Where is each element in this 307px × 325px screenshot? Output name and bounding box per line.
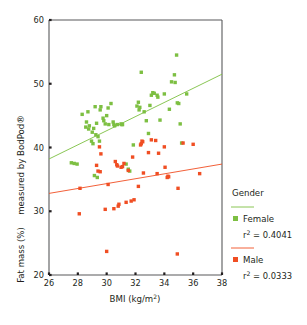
data-point: [158, 118, 161, 121]
data-point: [173, 81, 176, 84]
data-point: [105, 114, 108, 117]
data-point: [98, 108, 101, 111]
data-point: [75, 162, 78, 165]
data-point: [95, 122, 98, 125]
legend-male-swatch: [233, 257, 238, 262]
legend-female-r2: r2 = 0.4041: [243, 229, 292, 240]
data-point: [168, 108, 171, 111]
data-point: [114, 160, 117, 163]
y-tick-label: 50: [34, 79, 44, 89]
plot-frame: [49, 20, 222, 275]
x-tick-label: 30: [101, 278, 111, 288]
data-point: [91, 131, 94, 134]
data-point: [145, 119, 148, 122]
y-axis-tick-labels: 2030405060: [34, 15, 44, 280]
y-axis-title-upper: measured by BodPod®: [16, 115, 26, 215]
data-point: [173, 73, 176, 76]
y-tick-label: 20: [34, 270, 44, 280]
data-point: [112, 207, 115, 210]
male-data-points: [78, 138, 202, 256]
data-point: [178, 122, 181, 125]
data-point: [91, 142, 94, 145]
legend-male-label: Male: [243, 255, 263, 265]
data-point: [92, 127, 95, 130]
legend: Gender Female r2 = 0.4041 Male r2 = 0.03…: [231, 188, 292, 281]
data-point: [122, 162, 125, 165]
data-point: [132, 143, 135, 146]
data-point: [147, 151, 150, 154]
data-point: [138, 106, 141, 109]
data-point: [99, 152, 102, 155]
y-tick-label: 30: [34, 206, 44, 216]
data-point: [150, 138, 153, 141]
data-point: [80, 113, 83, 116]
female-trendline: [49, 74, 222, 159]
data-point: [175, 53, 178, 56]
data-point: [141, 140, 144, 143]
data-point: [142, 171, 145, 174]
data-point: [78, 212, 81, 215]
data-point: [157, 152, 160, 155]
female-data-points: [70, 53, 189, 179]
y-axis-title-lower: Fat mass (%): [16, 227, 26, 283]
data-point: [131, 155, 134, 158]
data-point: [93, 105, 96, 108]
x-tick-label: 36: [188, 278, 198, 288]
data-point: [98, 170, 101, 173]
data-point: [105, 250, 108, 253]
data-point: [104, 122, 107, 125]
data-point: [98, 139, 101, 142]
y-tick-label: 40: [34, 143, 44, 153]
data-point: [85, 120, 88, 123]
data-point: [109, 102, 112, 105]
chart-svg: 26283032343638 2030405060 BMI (kg/m2) me…: [0, 0, 307, 325]
data-point: [96, 176, 99, 179]
data-point: [167, 175, 170, 178]
x-tick-label: 26: [44, 278, 54, 288]
data-point: [104, 208, 107, 211]
data-point: [137, 101, 140, 104]
data-point: [127, 169, 130, 172]
legend-female-label: Female: [243, 214, 274, 224]
data-point: [95, 164, 98, 167]
data-point: [147, 132, 150, 135]
data-point: [102, 119, 105, 122]
data-point: [185, 92, 188, 95]
data-point: [163, 92, 166, 95]
data-point: [163, 145, 166, 148]
data-point: [137, 185, 140, 188]
legend-female-swatch: [233, 216, 238, 221]
data-point: [176, 187, 179, 190]
data-point: [117, 203, 120, 206]
x-tick-label: 38: [217, 278, 227, 288]
data-point: [132, 198, 135, 201]
data-point: [121, 165, 124, 168]
y-tick-label: 60: [34, 15, 44, 25]
male-trendline: [49, 164, 222, 193]
legend-title: Gender: [232, 188, 264, 198]
x-tick-label: 34: [159, 278, 169, 288]
data-point: [87, 127, 90, 130]
data-point: [163, 166, 166, 169]
legend-male-r2: r2 = 0.0333: [243, 270, 292, 281]
data-point: [154, 139, 157, 142]
x-axis-tick-labels: 26283032343638: [44, 278, 227, 288]
data-point: [98, 145, 101, 148]
data-point: [191, 143, 194, 146]
data-point: [198, 172, 201, 175]
data-point: [170, 80, 173, 83]
data-point: [140, 71, 143, 74]
data-point: [124, 201, 127, 204]
data-point: [177, 102, 180, 105]
x-tick-label: 28: [73, 278, 83, 288]
data-point: [107, 123, 110, 126]
x-tick-label: 32: [130, 278, 140, 288]
x-axis-title: BMI (kg/m2): [110, 293, 161, 304]
data-point: [116, 164, 119, 167]
data-point: [88, 124, 91, 127]
data-point: [106, 106, 109, 109]
data-point: [86, 110, 89, 113]
data-point: [99, 105, 102, 108]
scatter-chart-figure: 26283032343638 2030405060 BMI (kg/m2) me…: [0, 0, 307, 325]
data-point: [156, 95, 159, 98]
